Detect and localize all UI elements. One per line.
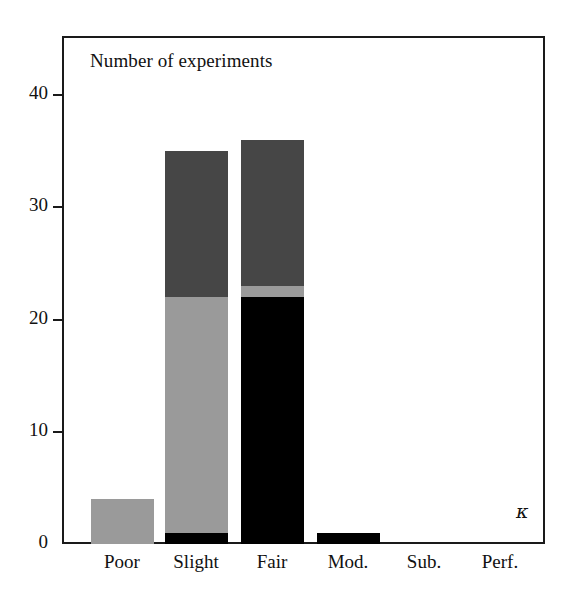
x-axis-tick-label: Perf. [482,551,518,573]
x-axis-tick-label: Sub. [407,551,441,573]
chart-figure: Number of experiments κ 403020100 PoorSl… [0,0,568,605]
bar-segment-dark-gray-segment [241,140,304,286]
bar-poor[interactable] [91,499,154,544]
x-axis-tick-label: Slight [173,551,218,573]
x-axis-tick-label: Mod. [328,551,369,573]
bar-segment-light-gray-segment [241,286,304,297]
bar-segment-black-segment [165,533,228,544]
bar-segment-black-segment [317,533,380,544]
bar-fair[interactable] [241,140,304,544]
bar-segment-light-gray-segment [165,297,228,533]
bar-segment-light-gray-segment [91,499,154,544]
x-axis-tick-label: Fair [257,551,288,573]
bar-slight[interactable] [165,151,228,544]
x-axis-tick-label: Poor [104,551,140,573]
bar-mod[interactable] [317,533,380,544]
bar-segment-black-segment [241,297,304,544]
bar-segment-dark-gray-segment [165,151,228,297]
bars-layer [0,0,568,605]
